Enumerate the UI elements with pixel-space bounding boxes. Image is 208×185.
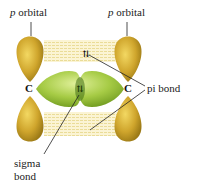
electron-pair-top: ⇅ xyxy=(82,49,90,60)
electron-pair-center: ⇅ xyxy=(76,84,84,95)
pi-cloud-bottom xyxy=(44,112,118,136)
pi-cloud-top xyxy=(44,40,118,62)
carbon-label-left: C xyxy=(25,83,33,94)
orbital-diagram: p orbital p orbital C C ⇅ ⇅ pi bond sigm… xyxy=(0,0,208,185)
p-orbital-label-right: p orbital xyxy=(108,6,145,18)
p-orbital-label-left: p orbital xyxy=(10,6,47,18)
carbon-label-right: C xyxy=(124,83,132,94)
pi-bond-label: pi bond xyxy=(147,82,180,94)
sigma-bond-label-line2: bond xyxy=(14,170,36,182)
sigma-bond-label-line1: sigma xyxy=(14,157,40,169)
